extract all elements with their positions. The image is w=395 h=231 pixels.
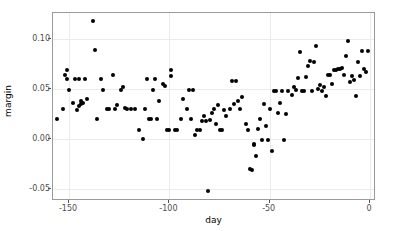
data-point <box>175 128 179 132</box>
data-point <box>198 128 202 132</box>
data-point <box>208 118 212 122</box>
data-point <box>61 107 65 111</box>
data-point <box>364 70 368 74</box>
data-point <box>280 89 284 93</box>
data-point <box>143 107 147 111</box>
data-point <box>314 44 318 48</box>
data-point <box>149 117 153 121</box>
data-point <box>320 89 324 93</box>
y-axis-title: margin <box>3 71 13 131</box>
data-point <box>252 142 256 146</box>
data-point <box>216 103 220 107</box>
data-point <box>230 79 234 83</box>
data-point <box>236 99 240 103</box>
data-point <box>310 89 314 93</box>
data-point <box>101 88 105 92</box>
data-point <box>264 124 268 128</box>
data-point <box>294 88 298 92</box>
data-point <box>99 77 103 81</box>
y-tick-label: 0.10 <box>32 34 50 43</box>
data-point <box>153 77 157 81</box>
data-point <box>244 122 248 126</box>
y-tick-label: 0.00 <box>32 134 50 143</box>
data-point <box>151 88 155 92</box>
x-tick-mark <box>168 200 169 203</box>
data-point <box>298 50 302 54</box>
gridline-x <box>169 13 170 199</box>
data-point <box>260 138 264 142</box>
data-point <box>204 119 208 123</box>
data-point <box>266 138 270 142</box>
data-point <box>206 189 210 193</box>
data-point <box>276 111 280 115</box>
data-point <box>344 54 348 58</box>
gridline-x <box>370 13 371 199</box>
x-axis-title: day <box>52 215 375 225</box>
gridline-y <box>53 139 374 140</box>
data-point <box>77 77 81 81</box>
data-point <box>210 111 214 115</box>
data-point <box>157 99 161 103</box>
data-point <box>302 89 306 93</box>
data-point <box>185 107 189 111</box>
data-point <box>181 97 185 101</box>
data-point <box>91 19 95 23</box>
data-point <box>358 74 362 78</box>
data-point <box>250 168 254 172</box>
data-point <box>322 85 326 89</box>
data-point <box>304 75 308 79</box>
data-point <box>222 108 226 112</box>
data-point <box>193 133 197 137</box>
x-tick-label: 0 <box>349 204 389 213</box>
data-point <box>296 76 300 80</box>
data-point <box>115 103 119 107</box>
data-point <box>366 49 370 53</box>
data-point <box>306 64 310 68</box>
data-point <box>234 79 238 83</box>
x-tick-label: -50 <box>249 204 289 213</box>
data-point <box>145 77 149 81</box>
data-point <box>200 119 204 123</box>
data-point <box>340 66 344 70</box>
data-point <box>191 88 195 92</box>
data-point <box>328 73 332 77</box>
gridline-x <box>69 13 70 199</box>
data-point <box>256 127 260 131</box>
gridline-x <box>270 13 271 199</box>
data-point <box>352 78 356 82</box>
data-point <box>284 112 288 116</box>
data-point <box>274 89 278 93</box>
data-point <box>214 122 218 126</box>
data-point <box>354 94 358 98</box>
data-point <box>81 101 85 105</box>
data-point <box>113 107 117 111</box>
scatter-plot-figure: -0.050.000.050.10-150-100-500 day margin <box>0 0 395 231</box>
y-tick-label: 0.05 <box>32 84 50 93</box>
data-point <box>254 154 258 158</box>
data-point <box>202 114 206 118</box>
data-point <box>163 84 167 88</box>
data-point <box>330 82 334 86</box>
gridline-y <box>53 39 374 40</box>
x-tick-mark <box>369 200 370 203</box>
data-point <box>286 89 290 93</box>
data-point <box>169 68 173 72</box>
data-point <box>137 128 141 132</box>
data-point <box>67 88 71 92</box>
data-point <box>268 107 272 111</box>
data-point <box>75 108 79 112</box>
data-point <box>224 114 228 118</box>
data-point <box>189 117 193 121</box>
data-point <box>71 101 75 105</box>
data-point <box>167 128 171 132</box>
data-point <box>133 107 137 111</box>
data-point <box>312 60 316 64</box>
data-point <box>179 117 183 121</box>
data-point <box>93 48 97 52</box>
data-point <box>141 137 145 141</box>
data-point <box>258 117 262 121</box>
data-point <box>95 117 99 121</box>
data-point <box>346 39 350 43</box>
data-point <box>107 107 111 111</box>
data-point <box>85 97 89 101</box>
